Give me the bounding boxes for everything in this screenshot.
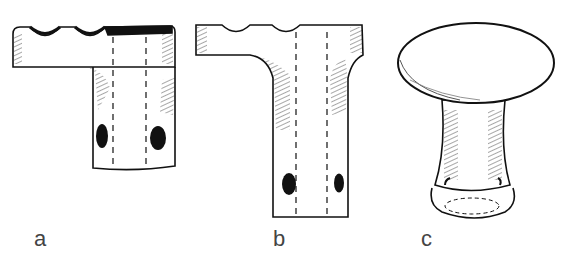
panel-b-drawing: [196, 25, 363, 217]
panel-label-b: b: [273, 228, 285, 250]
panel-a-drawing: [13, 26, 175, 170]
figure-drawing: [0, 0, 564, 258]
panel-label-c: c: [421, 228, 432, 250]
panel-c-drawing: [398, 23, 554, 218]
panel-label-a: a: [34, 228, 46, 250]
